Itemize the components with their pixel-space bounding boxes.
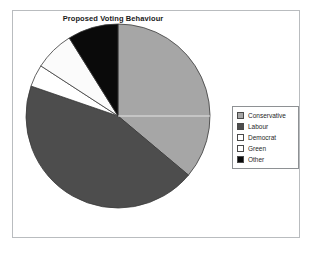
pie-slice-group	[26, 24, 210, 208]
legend-item-labour[interactable]: Labour	[237, 121, 294, 132]
legend-swatch-icon-other	[237, 156, 244, 163]
legend-swatch-icon-conservative	[237, 112, 244, 119]
legend-label-other: Other	[248, 155, 264, 164]
chart-legend: Conservative Labour Democrat Green Other	[232, 106, 299, 169]
legend-item-other[interactable]: Other	[237, 154, 294, 165]
legend-label-labour: Labour	[248, 122, 268, 131]
legend-label-democrat: Democrat	[248, 133, 276, 142]
legend-swatch-icon-green	[237, 145, 244, 152]
legend-item-democrat[interactable]: Democrat	[237, 132, 294, 143]
chart-frame: Proposed Voting Behaviour Conservative L…	[12, 10, 300, 238]
legend-item-conservative[interactable]: Conservative	[237, 110, 294, 121]
legend-swatch-icon-democrat	[237, 134, 244, 141]
legend-item-green[interactable]: Green	[237, 143, 294, 154]
legend-label-green: Green	[248, 144, 266, 153]
legend-swatch-icon-labour	[237, 123, 244, 130]
pie-chart-svg	[18, 16, 218, 216]
legend-label-conservative: Conservative	[248, 111, 286, 120]
chart-screenshot: Proposed Voting Behaviour Conservative L…	[0, 0, 311, 254]
